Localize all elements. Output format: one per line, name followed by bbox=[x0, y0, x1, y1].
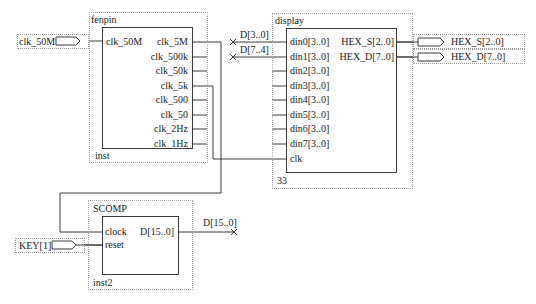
input-pin-label-key1: KEY[1] bbox=[19, 240, 51, 251]
pin-shape-key1 bbox=[0, 0, 536, 304]
